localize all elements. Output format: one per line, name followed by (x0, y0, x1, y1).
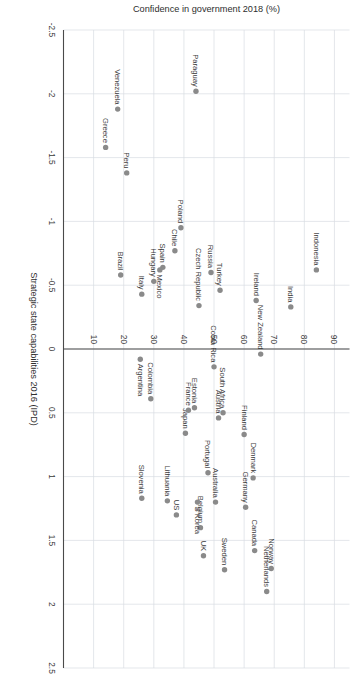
data-point: Colombia (146, 362, 155, 401)
y-tick-label: 30 (148, 335, 158, 345)
point-label: Poland (176, 200, 185, 224)
data-point: Russia (206, 245, 215, 275)
point-label: Italy (137, 276, 146, 290)
point-marker (118, 272, 123, 277)
point-marker (164, 498, 169, 503)
point-label: Mexico (155, 274, 164, 298)
data-point: Lithuania (162, 466, 171, 504)
data-point: Brazil (116, 251, 125, 277)
data-points: IndonesiaIndiaIrelandNew ZealandTurkeyRu… (101, 54, 321, 594)
data-point: Germany (241, 471, 250, 509)
point-label: Finland (239, 405, 248, 430)
data-point: Italy (137, 276, 146, 297)
data-point: Costa Rica (209, 325, 218, 369)
x-axis-ticks: -2.5-2-1.5-1-0.500.511.522.5 (46, 23, 56, 674)
data-point: Poland (176, 200, 185, 231)
point-label: Greece (101, 118, 110, 143)
point-marker (193, 89, 198, 94)
point-marker (212, 499, 217, 504)
data-point: Greece (101, 118, 110, 150)
point-marker (215, 415, 220, 420)
point-label: Colombia (146, 362, 155, 395)
point-label: UK (198, 541, 207, 552)
y-tick-label: 60 (239, 335, 249, 345)
point-marker (196, 303, 201, 308)
point-marker (139, 291, 144, 296)
point-label: Netherlands (262, 546, 271, 587)
data-point: Spain (158, 243, 167, 270)
point-label: Paraguay (191, 54, 200, 87)
point-label: Indonesia (311, 232, 320, 266)
point-label: Costa Rica (209, 325, 218, 363)
point-marker (288, 304, 293, 309)
point-marker (137, 357, 142, 362)
point-marker (148, 396, 153, 401)
point-label: US (171, 500, 180, 511)
point-label: Czech Republic (194, 248, 203, 301)
data-point: India (286, 286, 295, 310)
x-tick-label: -1.5 (46, 150, 56, 165)
point-label: Brazil (116, 251, 125, 270)
point-label: Venezuela (113, 69, 122, 105)
y-tick-label: 40 (178, 335, 188, 345)
point-label: Australia (210, 468, 219, 498)
point-marker (102, 145, 107, 150)
x-tick-label: -1 (46, 218, 56, 226)
data-point: Canada (250, 519, 259, 553)
point-label: Turkey (215, 263, 224, 286)
data-point: Chile (170, 229, 179, 254)
data-point: US (171, 500, 180, 518)
point-marker (257, 351, 262, 356)
data-point: Australia (210, 468, 219, 505)
point-marker (313, 267, 318, 272)
point-marker (250, 475, 255, 480)
point-label: Canada (250, 519, 259, 546)
point-label: Russia (206, 245, 215, 269)
point-label: New Zealand (256, 305, 265, 350)
point-marker (211, 364, 216, 369)
point-marker (191, 405, 196, 410)
point-label: Sweden (219, 538, 228, 565)
data-point: Venezuela (113, 69, 122, 112)
point-marker (241, 432, 246, 437)
point-marker (139, 496, 144, 501)
x-tick-label: 0.5 (46, 407, 56, 419)
point-label: Portugal (203, 440, 212, 469)
point-label: Spain (158, 243, 167, 262)
point-label: Ireland (251, 273, 260, 296)
point-label: Chile (170, 229, 179, 246)
x-tick-label: 1.5 (46, 535, 56, 547)
x-axis-title: Strategic state capabilities 2016 (IPD) (28, 272, 38, 426)
x-tick-label: -2 (46, 90, 56, 98)
point-label: Peru (122, 152, 131, 168)
x-tick-label: 2 (46, 602, 56, 607)
point-label: Hungary (149, 248, 158, 277)
point-marker (251, 548, 256, 553)
x-tick-label: -2.5 (46, 23, 56, 38)
point-marker (208, 270, 213, 275)
data-point: Netherlands (262, 546, 271, 594)
point-label: Slovenia (137, 465, 146, 495)
data-point: Slovenia (137, 465, 146, 501)
y-tick-label: 20 (118, 335, 128, 345)
point-label: Austria (213, 390, 222, 414)
point-marker (124, 170, 129, 175)
data-point: Indonesia (311, 232, 320, 272)
point-label: Denmark (248, 443, 257, 474)
point-marker (217, 288, 222, 293)
point-marker (205, 470, 210, 475)
point-marker (151, 279, 156, 284)
point-marker (221, 567, 226, 572)
rotated-chart-container: -2.5-2-1.5-1-0.500.511.522.5 10203040506… (0, 0, 363, 682)
data-point: Sweden (219, 538, 228, 573)
point-marker (114, 106, 119, 111)
y-tick-label: 90 (329, 335, 339, 345)
point-marker (242, 505, 247, 510)
point-marker (173, 512, 178, 517)
y-tick-label: 80 (299, 335, 309, 345)
data-point: Turkey (215, 263, 224, 293)
x-tick-label: 1 (46, 474, 56, 479)
y-axis-title: Confidence in government 2018 (%) (132, 4, 279, 14)
data-point: Peru (122, 152, 131, 175)
point-label: Argentina (135, 364, 144, 397)
